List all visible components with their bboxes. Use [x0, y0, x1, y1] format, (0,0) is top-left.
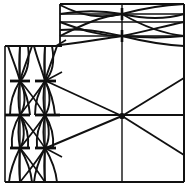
col2-curve-d2	[44, 148, 45, 182]
right-cross-block	[46, 46, 184, 182]
left-column-block	[5, 40, 66, 182]
col2-curve-a2	[44, 46, 45, 81]
col1-curve-a3	[20, 46, 32, 81]
center-crossing-node	[119, 113, 125, 119]
col2-curve-b4	[45, 81, 50, 115]
col1-curve-d2	[19, 148, 20, 182]
top-lens-curve-f	[60, 36, 122, 45]
top-right-block	[60, 4, 184, 46]
top-lens-curve-g	[122, 4, 184, 14]
lattice-diagram	[0, 0, 190, 186]
cross-diagonal-upper-left	[46, 81, 122, 116]
cross-diagonal-upper-right	[122, 78, 184, 116]
col1-curve-d3	[20, 148, 32, 182]
figure-root	[0, 0, 190, 186]
col1-curve-a2	[19, 46, 20, 81]
cross-diagonal-lower-left	[46, 116, 122, 148]
cross-diagonal-lower-right	[122, 116, 184, 155]
col1-curve-a1	[8, 46, 20, 81]
